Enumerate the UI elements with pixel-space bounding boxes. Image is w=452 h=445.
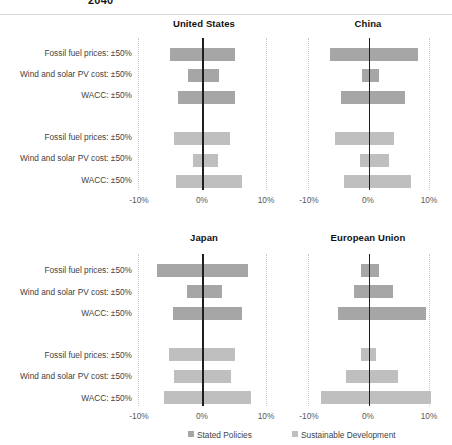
bar — [346, 370, 398, 383]
bar — [354, 285, 393, 298]
plot-area-united-states — [138, 38, 266, 190]
row-label-windpv-top2: Wind and solar PV cost: ±50% — [0, 153, 132, 163]
legend-item-sustainable-development: Sustainable Development — [292, 430, 396, 440]
plot-area-japan — [138, 254, 266, 406]
xtick-cn-max: 10% — [409, 195, 449, 205]
row-label-windpv-top: Wind and solar PV cost: ±50% — [0, 69, 132, 79]
gridline-max — [429, 254, 431, 406]
bar — [187, 285, 222, 298]
bar — [338, 307, 426, 320]
gridline-min — [138, 254, 140, 406]
xtick-cn-zero: 0% — [348, 195, 388, 205]
bar — [176, 175, 241, 188]
bar — [330, 48, 418, 61]
panel-title-china: China — [308, 18, 428, 29]
gridline-max — [266, 254, 268, 406]
legend-label-sustainable-development: Sustainable Development — [301, 430, 396, 440]
gridline-max — [429, 38, 431, 190]
gridline-min — [138, 38, 140, 190]
xtick-jp-min: -10% — [119, 411, 159, 421]
legend-label-stated-policies: Stated Policies — [197, 430, 252, 440]
panel-title-japan: Japan — [144, 232, 264, 243]
header-divider — [0, 14, 452, 15]
xtick-us-zero: 0% — [182, 195, 222, 205]
zero-axis-line — [369, 254, 371, 406]
gridline-min — [308, 254, 310, 406]
xtick-cn-min: -10% — [289, 195, 329, 205]
legend-swatch-stated-policies — [188, 431, 194, 437]
row-label-wacc-bot2: WACC: ±50% — [0, 393, 132, 403]
panel-title-united-states: United States — [144, 18, 264, 29]
xtick-us-min: -10% — [119, 195, 159, 205]
bar — [341, 91, 406, 104]
row-label-wacc-top: WACC: ±50% — [0, 90, 132, 100]
sensitivity-chart: 2040 Fossil fuel prices: ±50% Wind and s… — [0, 0, 452, 445]
row-label-wacc-top2: WACC: ±50% — [0, 175, 132, 185]
row-label-wacc-bot: WACC: ±50% — [0, 308, 132, 318]
row-label-fossil-top: Fossil fuel prices: ±50% — [0, 48, 132, 58]
legend: Stated Policies Sustainable Development — [0, 430, 452, 444]
gridline-min — [308, 38, 310, 190]
row-label-fossil-bot: Fossil fuel prices: ±50% — [0, 265, 132, 275]
bar — [361, 264, 379, 277]
figure-title: 2040 — [88, 0, 208, 8]
xtick-eu-max: 10% — [409, 411, 449, 421]
row-label-windpv-bot: Wind and solar PV cost: ±50% — [0, 287, 132, 297]
row-label-windpv-bot2: Wind and solar PV cost: ±50% — [0, 371, 132, 381]
legend-item-stated-policies: Stated Policies — [188, 430, 252, 440]
bar — [335, 132, 394, 145]
xtick-eu-zero: 0% — [348, 411, 388, 421]
zero-axis-line — [202, 38, 204, 190]
xtick-us-max: 10% — [246, 195, 286, 205]
panel-title-european-union: European Union — [308, 232, 428, 243]
bar — [164, 391, 251, 404]
zero-axis-line — [369, 38, 371, 190]
zero-axis-line — [202, 254, 204, 406]
legend-swatch-sustainable-development — [292, 431, 298, 437]
bar — [178, 91, 235, 104]
xtick-jp-zero: 0% — [182, 411, 222, 421]
row-label-fossil-bot2: Fossil fuel prices: ±50% — [0, 350, 132, 360]
gridline-max — [266, 38, 268, 190]
bar — [173, 307, 241, 320]
xtick-jp-max: 10% — [246, 411, 286, 421]
bar — [193, 154, 218, 167]
xtick-eu-min: -10% — [289, 411, 329, 421]
bar — [321, 391, 431, 404]
bar — [344, 175, 411, 188]
bar — [362, 69, 378, 82]
plot-area-european-union — [308, 254, 429, 406]
plot-area-china — [308, 38, 429, 190]
row-label-fossil-top2: Fossil fuel prices: ±50% — [0, 132, 132, 142]
bar — [360, 154, 389, 167]
